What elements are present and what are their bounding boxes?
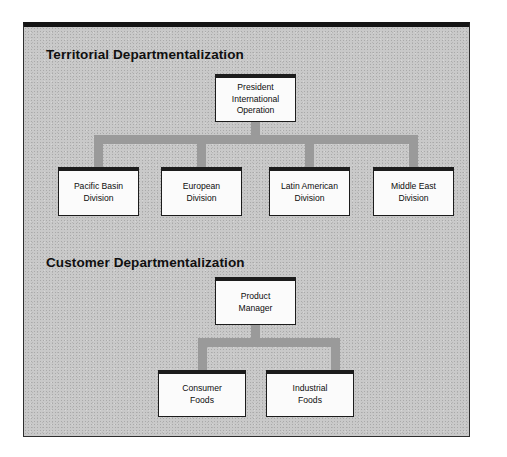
connector-customer-drop-2 <box>331 338 340 371</box>
node-label: Consumer Foods <box>179 383 225 407</box>
connector-territorial-drop-2 <box>197 135 206 168</box>
node-industrial-foods: Industrial Foods <box>266 370 354 417</box>
node-european-division: European Division <box>161 167 242 216</box>
connector-customer-drop-1 <box>198 338 207 371</box>
node-label: European Division <box>180 181 223 205</box>
node-middle-east-division: Middle East Division <box>373 167 454 216</box>
connector-territorial-drop-3 <box>305 135 314 168</box>
node-label: Product Manager <box>236 291 276 315</box>
node-pacific-basin-division: Pacific Basin Division <box>58 167 139 216</box>
node-consumer-foods: Consumer Foods <box>158 370 246 417</box>
node-latin-american-division: Latin American Division <box>269 167 350 216</box>
section-heading-customer: Customer Departmentalization <box>46 255 245 270</box>
connector-customer-horizontal-bus <box>198 338 340 347</box>
node-president-international-operation: President International Operation <box>215 74 296 122</box>
node-product-manager: Product Manager <box>215 277 296 325</box>
connector-territorial-drop-4 <box>409 135 418 168</box>
org-chart-figure: Territorial Departmentalization Presiden… <box>0 0 507 457</box>
node-label: President International Operation <box>229 82 282 118</box>
section-heading-territorial: Territorial Departmentalization <box>46 47 244 62</box>
connector-territorial-horizontal-bus <box>94 135 418 144</box>
node-label: Pacific Basin Division <box>71 181 126 205</box>
node-label: Latin American Division <box>278 181 341 205</box>
node-label: Industrial Foods <box>290 383 331 407</box>
node-label: Middle East Division <box>388 181 439 205</box>
connector-territorial-drop-1 <box>94 135 103 168</box>
diagram-panel: Territorial Departmentalization Presiden… <box>23 22 470 437</box>
